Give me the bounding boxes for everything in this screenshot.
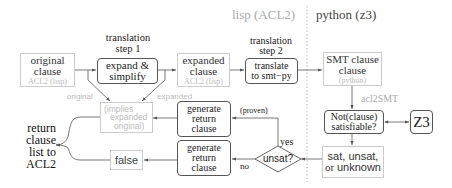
unsat-decision: unsat?: [262, 153, 294, 164]
z3-node: Z3: [410, 110, 433, 134]
generate-return-clause-false-node: generate return clause: [177, 140, 231, 176]
step1-caption-line1: translation: [96, 33, 160, 44]
result-node: sat, unsat, or unknown: [322, 146, 384, 178]
no-label: no: [240, 161, 249, 171]
step2-caption: translation step 2: [242, 36, 300, 56]
acl2smt-label: acl2SMT: [361, 93, 398, 104]
step2-caption-line2: step 2: [242, 46, 300, 56]
original-branch-label: original: [67, 92, 93, 101]
implies-line3: original): [104, 122, 144, 131]
generate-return-clause-proven-node: generate return clause: [177, 101, 231, 137]
original-clause-line1: original: [30, 55, 64, 66]
expand-line2: simplify: [109, 71, 146, 82]
return-to-acl2-label: return clause list to ACL2: [18, 122, 56, 170]
implies-node: (implies expanded original): [100, 102, 153, 133]
translate-node: translate to smt−py: [245, 58, 298, 84]
gen1-line3: clause: [192, 124, 217, 134]
result-line2-unknown: unknown: [337, 161, 381, 173]
smt-clause-node: SMT clause clause (python): [323, 52, 382, 86]
original-clause-sub: ACL2 (lisp): [28, 78, 67, 86]
expanded-clause-sub: ACL2 (lisp): [184, 78, 223, 86]
smt-clause-line1: SMT clause: [326, 54, 379, 65]
translate-line2: to smt−py: [251, 71, 291, 81]
step1-caption: translation step 1: [96, 33, 160, 54]
lisp-header: lisp (ACL2): [232, 7, 295, 23]
smt-clause-line2: clause: [339, 65, 366, 76]
gen2-line3: clause: [192, 163, 217, 173]
proven-label: (proven): [240, 106, 268, 115]
expanded-branch-label: expanded: [157, 92, 192, 101]
result-line2-or: or: [325, 161, 337, 173]
original-clause-line2: clause: [34, 66, 61, 77]
false-node: false: [110, 150, 143, 170]
expanded-clause-line1: expanded: [182, 55, 224, 66]
notclause-line2: satisfiable?: [332, 122, 377, 132]
python-header: python (z3): [316, 7, 376, 23]
yes-label: yes: [280, 136, 293, 147]
return-line4: ACL2: [18, 158, 56, 170]
not-clause-satisfiable-node: Not(clause) satisfiable?: [324, 110, 384, 134]
original-clause-node: original clause ACL2 (lisp): [20, 53, 75, 87]
expanded-clause-node: expanded clause ACL2 (lisp): [177, 53, 230, 87]
smt-clause-sub: (python): [339, 77, 367, 85]
expand-simplify-node: expand & simplify: [97, 58, 158, 84]
step1-caption-line2: step 1: [96, 44, 160, 55]
expanded-clause-line2: clause: [190, 66, 217, 77]
